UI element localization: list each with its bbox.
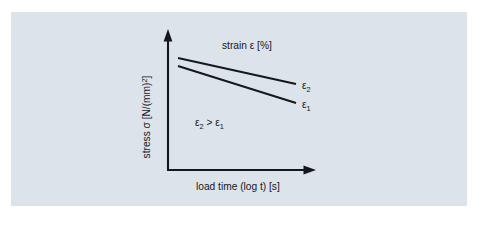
stress-vs-logtime-plot: strain ε [%] ε2 ε1 ε2 > ε1 load time (lo… bbox=[11, 12, 467, 206]
ordering-note-relation: > bbox=[204, 117, 216, 128]
curve-label-epsilon-1: ε1 bbox=[302, 99, 311, 113]
curve-label-epsilon-2: ε2 bbox=[302, 80, 311, 94]
y-axis-title: stress σ [N/(mm)2] bbox=[140, 75, 152, 158]
curve-label-epsilon-2-subscript: 2 bbox=[307, 85, 311, 94]
curve-label-epsilon-1-subscript: 1 bbox=[307, 104, 311, 113]
strain-ordering-note: ε2 > ε1 bbox=[195, 117, 224, 131]
x-axis-arrow-icon bbox=[304, 166, 317, 175]
chart-panel: strain ε [%] ε2 ε1 ε2 > ε1 load time (lo… bbox=[11, 12, 467, 206]
ordering-note-sub-b: 1 bbox=[220, 122, 224, 131]
y-axis-title-main: stress σ [N/(mm) bbox=[141, 83, 152, 159]
y-axis-title-tail: ] bbox=[141, 75, 152, 78]
x-axis-title: load time (log t) [s] bbox=[196, 181, 280, 192]
y-axis-arrow-icon bbox=[164, 29, 173, 42]
figure-root: strain ε [%] ε2 ε1 ε2 > ε1 load time (lo… bbox=[0, 0, 487, 230]
chart-title: strain ε [%] bbox=[222, 40, 272, 51]
